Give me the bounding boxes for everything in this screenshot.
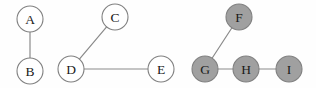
node-label-i: I <box>287 62 292 77</box>
node-label-h: H <box>241 62 251 77</box>
node-label-a: A <box>25 12 35 27</box>
graph-node-d[interactable]: D <box>58 56 84 82</box>
graph-node-i[interactable]: I <box>276 56 302 82</box>
node-label-f: F <box>235 10 243 25</box>
graph-canvas: ABCDEFGHI <box>0 0 316 88</box>
graph-node-g[interactable]: G <box>192 56 218 82</box>
node-label-c: C <box>110 10 119 25</box>
graph-edge-c-d <box>79 26 108 60</box>
node-label-b: B <box>25 64 34 79</box>
graph-node-b[interactable]: B <box>17 58 43 84</box>
node-label-e: E <box>157 62 165 77</box>
graph-diagram: ABCDEFGHI <box>0 0 316 88</box>
graph-node-h[interactable]: H <box>233 56 259 82</box>
graph-node-c[interactable]: C <box>102 4 128 30</box>
graph-node-f[interactable]: F <box>226 4 252 30</box>
graph-edge-f-g <box>212 27 233 59</box>
graph-node-e[interactable]: E <box>148 56 174 82</box>
graph-node-a[interactable]: A <box>17 6 43 32</box>
node-label-d: D <box>66 62 76 77</box>
node-layer: ABCDEFGHI <box>17 4 302 84</box>
node-label-g: G <box>200 62 210 77</box>
